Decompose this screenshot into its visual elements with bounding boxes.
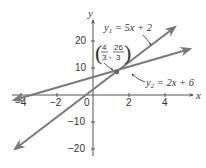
svg-text:y1 = 5x + 2: y1 = 5x + 2 bbox=[103, 22, 153, 35]
svg-text:): ) bbox=[124, 40, 131, 65]
svg-text:26: 26 bbox=[114, 43, 123, 52]
y-tick-label: 20 bbox=[75, 35, 87, 46]
y2-annotation: y2 = 2x + 6 bbox=[132, 74, 195, 90]
svg-text:3: 3 bbox=[116, 53, 121, 62]
y-tick-label: −20 bbox=[68, 143, 85, 154]
line-chart: −4 −2 0 2 4 x 20 10 −10 −20 y y1 = 5x + … bbox=[0, 0, 206, 168]
y-axis-label: y bbox=[87, 7, 93, 19]
intersection-point bbox=[115, 70, 119, 74]
y-tick-label: 10 bbox=[75, 62, 87, 73]
svg-text:3: 3 bbox=[102, 53, 107, 62]
svg-text:,: , bbox=[109, 50, 112, 60]
svg-text:y2 = 2x + 6: y2 = 2x + 6 bbox=[145, 77, 195, 90]
x-tick-label: −2 bbox=[50, 97, 62, 108]
x-tick-label: 0 bbox=[84, 97, 90, 108]
x-tick-label: 2 bbox=[126, 97, 132, 108]
y-tick-label: −10 bbox=[68, 116, 85, 127]
x-axis-label: x bbox=[195, 89, 201, 101]
x-tick-label: 4 bbox=[162, 97, 168, 108]
y-axis: 20 10 −10 −20 y bbox=[68, 7, 95, 156]
svg-text:4: 4 bbox=[102, 43, 107, 52]
